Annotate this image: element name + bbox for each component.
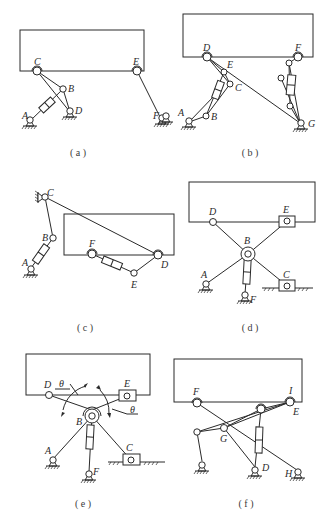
label-a: A xyxy=(21,110,29,121)
mechanism-diagrams: C E B A D F ( a ) xyxy=(0,0,327,527)
label-b: B xyxy=(211,111,217,122)
label-e: E xyxy=(226,59,233,70)
panel-c: C B A F D E ( c ) xyxy=(21,187,174,334)
label-f: F xyxy=(249,294,257,305)
label-a: A xyxy=(44,445,52,456)
joint-b xyxy=(60,86,66,92)
label-a: A xyxy=(177,107,185,118)
label-d: D xyxy=(43,379,52,390)
caption-c: ( c ) xyxy=(77,322,93,334)
hydraulic-cylinder-d xyxy=(243,260,251,284)
caption-e: ( e ) xyxy=(75,498,91,510)
link-g-d xyxy=(224,428,255,467)
label-d: D xyxy=(160,259,169,270)
joint-g xyxy=(221,425,228,432)
label-f: F xyxy=(88,238,96,249)
label-g: G xyxy=(220,433,227,444)
label-e: E xyxy=(130,279,137,290)
label-b: B xyxy=(76,416,82,427)
label-b: B xyxy=(42,232,48,243)
label-d: D xyxy=(202,42,211,53)
joint-d xyxy=(154,251,162,259)
joint-e xyxy=(133,67,141,75)
label-e: E xyxy=(132,56,139,67)
hydraulic-cylinder-b2 xyxy=(286,75,296,96)
panel-b: D F E C B A G ( b ) xyxy=(158,14,315,159)
ground-pivot-a xyxy=(45,457,60,469)
joint-c xyxy=(227,81,233,87)
joint-f xyxy=(294,53,302,61)
label-c: C xyxy=(34,56,41,67)
hydraulic-cylinder-c1 xyxy=(32,244,49,264)
label-d: D xyxy=(208,206,217,217)
label-b: B xyxy=(68,83,74,94)
label-c: C xyxy=(283,269,290,280)
ground-pivot-a xyxy=(198,281,213,293)
ground-pivot-g xyxy=(293,120,308,132)
label-f: F xyxy=(192,386,200,397)
joint-d xyxy=(210,219,217,226)
hydraulic-cylinder-f xyxy=(255,427,263,453)
joint-c xyxy=(33,67,41,75)
arrow-icon xyxy=(107,413,111,418)
label-b: B xyxy=(244,235,250,246)
ground-pivot-a xyxy=(181,118,196,130)
link-f-h xyxy=(197,403,297,470)
hydraulic-cylinder-b1 xyxy=(212,80,225,99)
panel-a: C E B A D F ( a ) xyxy=(20,30,169,159)
panel-e: D θ E θ B A C F ( e ) xyxy=(26,354,165,510)
label-f: F xyxy=(92,466,100,477)
caption-f: ( f ) xyxy=(239,498,254,510)
link-a-b xyxy=(206,254,248,284)
joint-i-e xyxy=(286,398,294,406)
label-c: C xyxy=(126,442,133,453)
caption-d: ( d ) xyxy=(242,322,259,334)
label-f: F xyxy=(152,110,160,121)
panel-d: D E B A C F ( d ) xyxy=(189,182,315,334)
link-e-d xyxy=(134,255,158,273)
link-d-b xyxy=(49,395,92,410)
link-ground-i xyxy=(197,402,290,432)
label-c: C xyxy=(47,187,54,198)
label-e: E xyxy=(292,406,299,417)
joint-d xyxy=(203,53,211,61)
arrow-icon xyxy=(61,412,65,417)
label-e: E xyxy=(123,378,130,389)
joint-f xyxy=(88,250,96,258)
panel-f: F I E G D H ( f ) xyxy=(174,359,305,510)
label-i: I xyxy=(288,385,293,396)
label-a: A xyxy=(200,269,208,280)
platform-d xyxy=(189,182,315,222)
label-f: F xyxy=(294,42,302,53)
joint-e xyxy=(131,270,137,276)
label-d: D xyxy=(261,462,270,473)
ground-pivot-h xyxy=(290,469,305,481)
ground-pivot-left xyxy=(194,462,209,474)
label-g: G xyxy=(308,118,315,129)
label-theta-2: θ xyxy=(130,404,135,415)
label-h: H xyxy=(284,468,293,479)
label-a: A xyxy=(21,257,29,268)
joint-d xyxy=(46,392,53,399)
hydraulic-cylinder-e xyxy=(86,425,94,449)
label-d: D xyxy=(74,105,83,116)
hydraulic-cylinder-c2 xyxy=(101,256,122,270)
label-c: C xyxy=(235,82,242,93)
link-c-b xyxy=(37,71,63,89)
joint-b xyxy=(50,235,56,241)
label-e: E xyxy=(282,204,289,215)
ground-pivot-d xyxy=(247,467,262,479)
joint-f xyxy=(193,399,201,407)
link-c-b xyxy=(92,416,131,460)
caption-b: ( b ) xyxy=(242,147,259,159)
caption-a: ( a ) xyxy=(70,147,86,159)
joint-b xyxy=(203,113,209,119)
hydraulic-cylinder-a xyxy=(39,97,55,113)
label-theta-1: θ xyxy=(59,378,64,389)
